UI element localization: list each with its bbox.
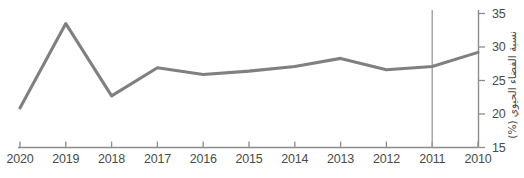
x-tick-label-2019: 2019 bbox=[52, 152, 79, 166]
x-tick-label-2017: 2017 bbox=[144, 152, 171, 166]
x-tick-label-2012: 2012 bbox=[373, 152, 400, 166]
x-axis-ticks bbox=[20, 142, 478, 148]
x-tick-label-2013: 2013 bbox=[327, 152, 354, 166]
x-tick-label-2010: 2010 bbox=[464, 152, 491, 166]
x-tick-label-2015: 2015 bbox=[235, 152, 262, 166]
y-axis-title-text: نسبة الفضاء الحيوي (%) bbox=[507, 31, 518, 139]
x-tick-label-2016: 2016 bbox=[190, 152, 217, 166]
x-tick-label-2014: 2014 bbox=[281, 152, 308, 166]
x-tick-label-2011: 2011 bbox=[419, 152, 445, 166]
data-line-series bbox=[20, 24, 478, 108]
x-tick-label-2018: 2018 bbox=[98, 152, 125, 166]
y-tick-label-35: 35 bbox=[492, 7, 506, 21]
chart-container: 2020 2019 2018 2017 2016 2015 2014 2013 … bbox=[0, 0, 524, 178]
x-tick-label-2020: 2020 bbox=[6, 152, 33, 166]
y-axis-ticks bbox=[479, 14, 486, 148]
y-axis-title: نسبة الفضاء الحيوي (%) bbox=[503, 20, 521, 150]
